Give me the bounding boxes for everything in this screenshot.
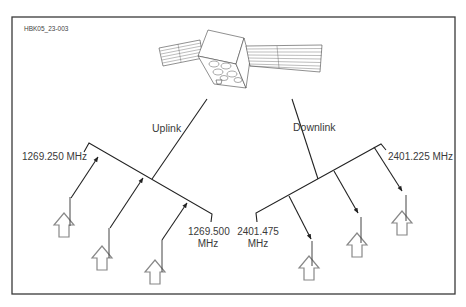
- satellite-icon: [159, 30, 322, 88]
- ground-station-icon: [54, 197, 74, 237]
- downlink-label: Downlink: [293, 121, 336, 133]
- ground-station-icon: [92, 228, 112, 270]
- downlink-freq-high: 2401.225 MHz: [388, 151, 453, 163]
- downlink-freq-low: 2401.475 MHz: [237, 226, 279, 249]
- ground-station-icon: [392, 195, 412, 235]
- downlink-freq-low-value: 2401.475: [237, 226, 279, 238]
- downlink-freq-low-unit: MHz: [237, 238, 279, 250]
- uplink-freq-high: 1269.500 MHz: [188, 226, 228, 249]
- uplink-label: Uplink: [152, 122, 181, 134]
- downlink-paths: [256, 99, 402, 239]
- ground-station-icon: [299, 241, 319, 280]
- uplink-paths: [71, 99, 212, 240]
- uplink-ground-stations: [54, 197, 165, 284]
- uplink-freq-low: 1269.250 MHz: [22, 151, 87, 163]
- ground-station-icon: [145, 240, 165, 284]
- figure-id-label: HBK05_23-003: [24, 25, 68, 32]
- ground-station-icon: [347, 217, 367, 257]
- uplink-freq-high-unit: MHz: [188, 238, 228, 250]
- uplink-freq-high-value: 1269.500: [188, 226, 228, 238]
